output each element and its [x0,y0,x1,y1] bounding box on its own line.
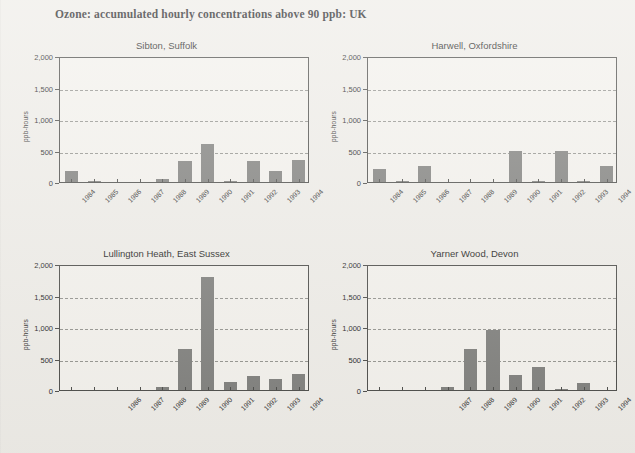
x-tick-mark [516,179,517,182]
x-tick-mark [276,387,277,390]
bar [178,349,191,390]
y-tick-mark [363,120,367,121]
y-tick-mark [55,360,59,361]
y-tick-label: 1,000 [34,116,53,125]
x-tick-mark [276,179,277,182]
y-tick-label: 1,000 [342,116,361,125]
chart-panel-sibton: Sibton, Suffolkppb-hours05001,0001,5002,… [14,40,319,235]
x-tick-mark [299,387,300,390]
figure-title: Ozone: accumulated hourly concentrations… [55,8,367,20]
x-tick-label: 1989 [503,396,519,412]
x-tick-mark [140,179,141,182]
x-tick-mark [208,179,209,182]
x-tick-mark [379,387,380,390]
y-tick-mark [363,57,367,58]
y-axis-label-lullington-heath-east-sussex: ppb-hours [22,319,29,350]
x-tick-label: 1984 [389,188,405,204]
gridline [60,90,308,91]
x-tick-label: 1992 [571,188,587,204]
gridline [368,298,616,299]
y-tick-label: 0 [49,387,53,396]
panel-title-sibton-suffolk: Sibton, Suffolk [14,40,319,51]
x-tick-label: 1990 [525,396,541,412]
x-tick-label: 1991 [240,188,256,204]
x-tick-mark [208,387,209,390]
y-tick-label: 2,000 [342,53,361,62]
x-tick-label: 1990 [217,396,233,412]
x-tick-label: 1988 [172,188,188,204]
y-tick-label: 2,000 [34,261,53,270]
y-tick-mark [363,360,367,361]
plot-area-yarner-wood-devon [367,265,617,391]
x-tick-label: 1992 [263,188,279,204]
x-tick-mark [253,179,254,182]
x-tick-mark [516,387,517,390]
panel-title-yarner-wood-devon: Yarner Wood, Devon [322,248,627,259]
x-tick-mark [71,179,72,182]
y-tick-mark [55,328,59,329]
x-tick-mark [299,179,300,182]
gridline [60,298,308,299]
chart-panel-harwell: Harwell, Oxfordshireppb-hours05001,0001,… [322,40,627,235]
x-tick-label: 1988 [172,396,188,412]
y-tick-label: 2,000 [34,53,53,62]
x-tick-mark [230,387,231,390]
plot-area-harwell-oxfordshire [367,57,617,183]
y-tick-label: 500 [40,147,53,156]
x-tick-mark [162,179,163,182]
y-axis-label-yarner-wood-devon: ppb-hours [330,319,337,350]
bar [486,330,499,390]
x-tick-label: 1986 [434,188,450,204]
x-tick-mark [448,387,449,390]
y-tick-label: 2,000 [342,261,361,270]
y-tick-label: 500 [348,147,361,156]
x-tick-label: 1993 [593,396,609,412]
x-tick-label: 1990 [217,188,233,204]
y-tick-mark [363,328,367,329]
y-tick-mark [363,391,367,392]
gridline [60,121,308,122]
y-tick-label: 500 [40,355,53,364]
x-tick-label: 1989 [195,188,211,204]
chart-panel-lullington-heath: Lullington Heath, East Sussexppb-hours05… [14,248,319,443]
gridline [368,90,616,91]
x-tick-mark [448,179,449,182]
y-tick-mark [55,183,59,184]
x-tick-mark [185,387,186,390]
x-tick-mark [538,387,539,390]
x-tick-mark [425,387,426,390]
x-tick-mark [493,179,494,182]
x-tick-label: 1991 [548,396,564,412]
x-tick-label: 1993 [593,188,609,204]
y-tick-label: 0 [357,179,361,188]
x-tick-mark [253,387,254,390]
y-tick-mark [55,89,59,90]
bar [509,151,522,182]
x-tick-mark [379,179,380,182]
x-tick-label: 1986 [126,396,142,412]
plot-area-lullington-heath-east-sussex [59,265,309,391]
y-tick-label: 1,500 [342,292,361,301]
x-tick-label: 1992 [263,396,279,412]
y-tick-label: 1,500 [342,84,361,93]
plot-area-sibton-suffolk [59,57,309,183]
x-tick-mark [117,387,118,390]
x-tick-mark [493,387,494,390]
y-tick-mark [363,297,367,298]
x-tick-mark [162,387,163,390]
x-tick-label: 1989 [503,188,519,204]
y-tick-mark [55,265,59,266]
panel-title-lullington-heath-east-sussex: Lullington Heath, East Sussex [14,248,319,259]
x-tick-label: 1994 [616,188,632,204]
y-tick-label: 0 [49,179,53,188]
x-tick-label: 1991 [548,188,564,204]
x-tick-label: 1992 [571,396,587,412]
x-tick-mark [230,179,231,182]
y-tick-label: 0 [357,387,361,396]
x-tick-label: 1991 [240,396,256,412]
y-tick-mark [55,391,59,392]
y-tick-label: 1,500 [34,292,53,301]
x-tick-mark [185,179,186,182]
y-tick-mark [55,57,59,58]
bar [464,349,477,390]
